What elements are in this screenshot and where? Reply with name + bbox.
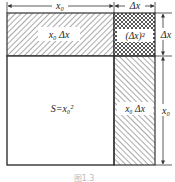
area-diagram: x₀ Δx Δx x₀ x₀ Δx (Δx)² S=x₀² x₀ Δx 图1.3 bbox=[0, 0, 175, 182]
corner-square-label: (Δx)² bbox=[126, 31, 145, 42]
figure-caption: 图1.3 bbox=[74, 174, 95, 182]
top-strip-label: x₀ Δx bbox=[48, 29, 70, 40]
right-strip-label: x₀ Δx bbox=[124, 104, 145, 114]
right-dimension-x0-label: x₀ bbox=[161, 105, 170, 116]
top-dimension-x0-label: x₀ bbox=[55, 0, 64, 11]
right-dimension-dx-label: Δx bbox=[160, 29, 172, 40]
top-dimension-dx-label: Δx bbox=[129, 0, 141, 11]
main-square-label: S=x₀² bbox=[51, 103, 75, 114]
